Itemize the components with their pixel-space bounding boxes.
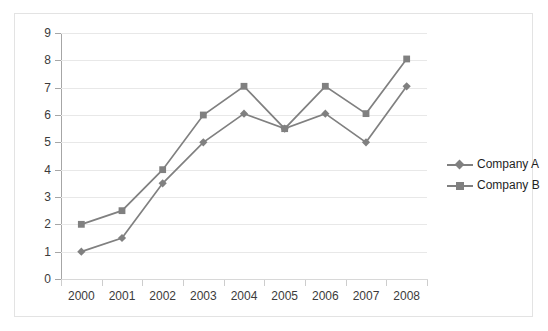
y-axis-tick-label: 6 [17,109,51,121]
chart-frame: 0123456789 20002001200220032004200520062… [14,13,533,317]
y-axis-tick [55,224,61,225]
clipped-caption-above [0,0,548,11]
y-axis-tick-label: 3 [17,191,51,203]
y-axis-tick [55,197,61,198]
square-marker-point [322,83,329,90]
legend-label-company-a: Company A [473,158,539,171]
x-axis-tick [386,280,387,286]
diamond-marker-point [77,248,85,256]
x-axis-tick [264,280,265,286]
chart-legend: Company A Company B [447,154,547,196]
y-axis-tick-label: 1 [17,246,51,258]
square-marker-point [363,110,370,117]
y-axis-tick [55,60,61,61]
y-axis-tick [55,33,61,34]
legend-item-company-a[interactable]: Company A [447,154,547,175]
y-axis-tick [55,170,61,171]
x-axis-tick-label: 2008 [381,290,433,303]
y-axis-tick-label: 4 [17,164,51,176]
x-axis-tick [305,280,306,286]
square-marker-point [119,207,126,214]
y-axis-tick-label: 2 [17,218,51,230]
y-axis-tick-label: 9 [17,27,51,39]
y-axis-tick [55,252,61,253]
x-axis-tick [183,280,184,286]
y-axis-labels: 0123456789 [15,14,51,318]
y-axis-tick-label: 7 [17,82,51,94]
gridline [61,279,427,280]
square-marker-point [241,83,248,90]
series-lines [61,33,427,279]
y-axis-tick [55,88,61,89]
plot-area [61,33,427,279]
legend-item-company-b[interactable]: Company B [447,175,547,196]
x-axis-tick [61,280,62,286]
x-axis-tick [142,280,143,286]
diamond-marker-icon [447,159,473,171]
square-marker-point [281,125,288,132]
square-marker-point [159,166,166,173]
x-axis-tick [346,280,347,286]
x-axis-tick [427,280,428,286]
y-axis-tick-label: 8 [17,54,51,66]
y-axis-tick-label: 0 [17,273,51,285]
legend-label-company-b: Company B [473,179,540,192]
square-marker-point [78,221,85,228]
y-axis-tick [55,142,61,143]
x-axis-tick [224,280,225,286]
square-marker-point [403,56,410,63]
square-marker-icon [447,180,473,192]
y-axis-tick [55,279,61,280]
y-axis-tick [55,115,61,116]
square-marker-point [200,112,207,119]
x-axis-tick [102,280,103,286]
y-axis-tick-label: 5 [17,136,51,148]
